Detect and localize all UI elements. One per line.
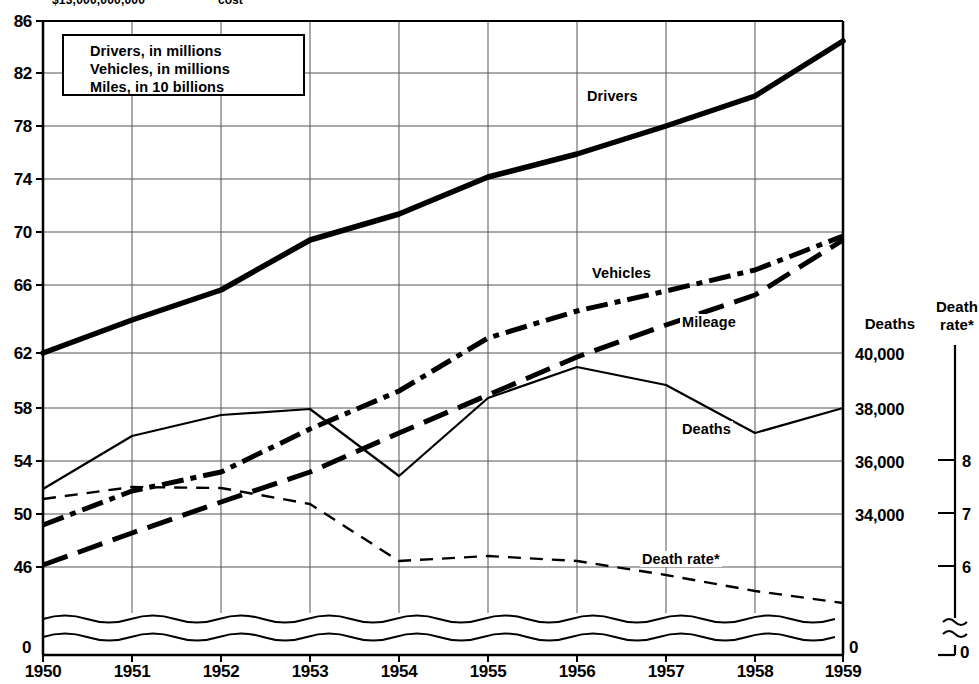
series-death-rate-line xyxy=(43,487,843,603)
x-tick-1953: 1953 xyxy=(280,662,340,682)
series-label-mileage: Mileage xyxy=(680,314,738,330)
death-rate-tick-7: 7 xyxy=(962,505,971,524)
y-tick-66: 66 xyxy=(0,276,32,296)
death-rate-tick-6: 6 xyxy=(962,558,971,577)
axis-break-band xyxy=(43,616,835,641)
x-tick-1955: 1955 xyxy=(458,662,518,682)
x-tick-1958: 1958 xyxy=(725,662,785,682)
x-tick-1951: 1951 xyxy=(102,662,162,682)
y-tick-86: 86 xyxy=(0,12,32,32)
y-tick-46: 46 xyxy=(0,558,32,578)
x-tick-1954: 1954 xyxy=(369,662,429,682)
y-tick-74: 74 xyxy=(0,170,32,190)
x-tick-1957: 1957 xyxy=(636,662,696,682)
death-rate-tick-8: 8 xyxy=(962,452,971,471)
x-tick-1956: 1956 xyxy=(547,662,607,682)
y-tick-54: 54 xyxy=(0,452,32,472)
deaths-tick-36000: 36,000 xyxy=(855,453,904,472)
death-rate-axis-group xyxy=(938,345,967,655)
legend-box: Drivers, in millions Vehicles, in millio… xyxy=(62,34,305,96)
series-label-death-rate: Death rate* xyxy=(640,551,722,567)
y-tick-70: 70 xyxy=(0,223,32,243)
series-mileage-line xyxy=(43,240,843,565)
deaths-tick-zero: 0 xyxy=(849,638,858,658)
y-tick-62: 62 xyxy=(0,344,32,364)
death-rate-axis-title-line1: Death xyxy=(922,298,979,315)
x-tick-1959: 1959 xyxy=(813,662,873,682)
series-label-drivers: Drivers xyxy=(585,88,640,104)
deaths-axis-title: Deaths xyxy=(855,315,925,332)
chart-canvas: $13,000,000,000 cost xyxy=(0,0,979,684)
deaths-tick-34000: 34,000 xyxy=(855,506,904,525)
axis-frame xyxy=(43,21,843,655)
legend-item-drivers: Drivers, in millions xyxy=(90,42,303,60)
deaths-tick-38000: 38,000 xyxy=(855,400,904,419)
legend-item-miles: Miles, in 10 billions xyxy=(90,78,303,96)
death-rate-axis-title-line2: rate* xyxy=(922,316,979,333)
y-tick-zero: 0 xyxy=(22,638,31,658)
x-tick-1950: 1950 xyxy=(13,662,73,682)
chart-svg xyxy=(0,0,979,684)
y-tick-78: 78 xyxy=(0,117,32,137)
y-tick-58: 58 xyxy=(0,399,32,419)
legend-item-vehicles: Vehicles, in millions xyxy=(90,60,303,78)
series-vehicles-line xyxy=(43,236,843,525)
y-tick-50: 50 xyxy=(0,505,32,525)
series-label-deaths: Deaths xyxy=(680,421,733,437)
x-tick-1952: 1952 xyxy=(191,662,251,682)
death-rate-tick-zero: 0 xyxy=(960,643,969,663)
y-tick-82: 82 xyxy=(0,64,32,84)
series-label-vehicles: Vehicles xyxy=(590,265,653,281)
deaths-tick-40000: 40,000 xyxy=(855,345,904,364)
